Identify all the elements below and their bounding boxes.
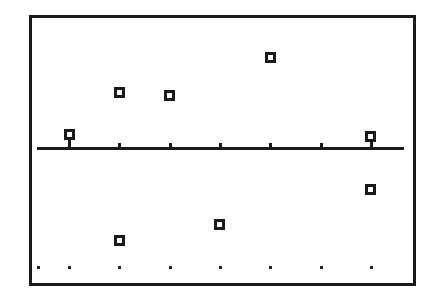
grid-dot	[118, 266, 121, 269]
grid-dot	[68, 266, 71, 269]
x-axis-tick	[320, 143, 323, 148]
data-point-marker	[365, 131, 376, 142]
data-point-marker	[114, 235, 125, 246]
data-point-marker	[164, 90, 175, 101]
x-axis-tick	[118, 143, 121, 148]
grid-dot	[37, 266, 40, 269]
data-point-marker	[114, 87, 125, 98]
data-point-marker	[214, 219, 225, 230]
data-point-marker	[265, 52, 276, 63]
x-axis-tick	[269, 143, 272, 148]
x-axis-tick	[169, 143, 172, 148]
data-point-marker	[365, 184, 376, 195]
data-point-marker	[64, 129, 75, 140]
grid-dot	[320, 266, 323, 269]
grid-dot	[370, 266, 373, 269]
grid-dot	[219, 266, 222, 269]
grid-dot	[269, 266, 272, 269]
x-axis-tick	[219, 143, 222, 148]
scatter-plot-area	[0, 0, 435, 304]
grid-dot	[169, 266, 172, 269]
